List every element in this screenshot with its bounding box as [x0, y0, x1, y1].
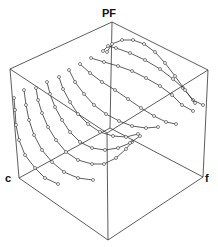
- data-point-marker: [57, 183, 60, 186]
- data-point-marker: [121, 39, 124, 42]
- data-point-marker: [103, 61, 106, 64]
- data-point-marker: [192, 110, 195, 113]
- data-point-marker: [202, 104, 205, 107]
- data-point-marker: [131, 70, 134, 73]
- data-point-marker: [164, 62, 167, 65]
- data-point-marker: [13, 97, 16, 100]
- curve: [79, 63, 178, 126]
- data-point-marker: [157, 126, 160, 129]
- data-point-marker: [49, 93, 52, 96]
- data-point-marker: [194, 102, 197, 105]
- data-point-marker: [102, 50, 105, 53]
- curve: [58, 76, 140, 139]
- data-point-marker: [41, 112, 44, 115]
- data-point-marker: [47, 126, 50, 129]
- data-point-marker: [14, 109, 17, 112]
- data-point-marker: [115, 157, 118, 160]
- data-point-marker: [129, 52, 132, 55]
- data-point-marker: [24, 154, 27, 157]
- data-point-marker: [15, 124, 18, 127]
- data-point-marker: [181, 104, 184, 107]
- data-point-marker: [77, 159, 80, 162]
- cube-edge: [203, 70, 208, 177]
- curve: [102, 45, 205, 107]
- data-point-marker: [137, 133, 140, 136]
- data-point-marker: [69, 101, 72, 104]
- data-point-marker: [63, 171, 66, 174]
- data-point-marker: [58, 76, 61, 79]
- data-point-marker: [154, 51, 157, 54]
- data-point-marker: [101, 81, 104, 84]
- data-point-marker: [41, 149, 44, 152]
- curve: [46, 81, 142, 152]
- data-point-marker: [125, 148, 128, 151]
- data-point-marker: [83, 93, 86, 96]
- axis-label-pf: PF: [102, 7, 116, 19]
- data-point-marker: [90, 57, 93, 60]
- data-point-marker: [89, 72, 92, 75]
- data-point-marker: [62, 88, 65, 91]
- data-point-marker: [115, 47, 118, 50]
- data-point-marker: [107, 45, 110, 48]
- data-point-marker: [103, 163, 106, 166]
- data-point-marker: [145, 127, 148, 130]
- data-point-marker: [143, 43, 146, 46]
- data-point-marker: [129, 142, 132, 145]
- data-point-marker: [175, 123, 178, 126]
- cube-edge: [10, 22, 112, 69]
- curve: [106, 39, 197, 105]
- cube-edge: [110, 128, 203, 177]
- cube-edges: [10, 22, 208, 240]
- data-point-marker: [74, 81, 77, 84]
- data-point-marker: [18, 139, 21, 142]
- data-point-marker: [65, 151, 68, 154]
- cube-edge: [107, 133, 108, 240]
- axis-label-f: f: [205, 172, 209, 184]
- data-point-marker: [99, 131, 102, 134]
- cube-edge: [10, 69, 19, 178]
- data-point-marker: [51, 161, 54, 164]
- data-point-marker: [125, 136, 128, 139]
- data-point-marker: [92, 179, 95, 182]
- data-point-marker: [91, 163, 94, 166]
- data-point-marker: [117, 147, 120, 150]
- data-point-marker: [37, 99, 40, 102]
- data-point-marker: [104, 149, 107, 152]
- data-point-marker: [68, 69, 71, 72]
- data-point-marker: [33, 134, 36, 137]
- data-point-marker: [117, 65, 120, 68]
- data-point-marker: [25, 104, 28, 107]
- data-point-marker: [54, 106, 57, 109]
- cube-diagram: [0, 0, 218, 247]
- data-point-marker: [132, 39, 135, 42]
- data-point-marker: [87, 123, 90, 126]
- data-point-marker: [111, 43, 114, 46]
- data-point-marker: [79, 63, 82, 66]
- data-point-marker: [28, 119, 31, 122]
- data-point-marker: [77, 177, 80, 180]
- data-point-marker: [44, 177, 47, 180]
- data-point-marker: [69, 131, 72, 134]
- data-point-marker: [127, 98, 130, 101]
- data-point-marker: [171, 94, 174, 97]
- data-point-marker: [79, 141, 82, 144]
- curve: [13, 97, 60, 186]
- axis-label-c: c: [5, 172, 11, 184]
- response-curves: [13, 39, 205, 186]
- data-point-marker: [144, 59, 147, 62]
- data-point-marker: [140, 107, 143, 110]
- cube-edge: [19, 178, 108, 240]
- data-point-marker: [118, 120, 121, 123]
- data-point-marker: [105, 113, 108, 116]
- cube-edge: [108, 177, 203, 240]
- cube-edge: [112, 22, 208, 70]
- data-point-marker: [35, 87, 38, 90]
- data-point-marker: [153, 115, 156, 118]
- data-point-marker: [91, 147, 94, 150]
- data-point-marker: [145, 77, 148, 80]
- data-point-marker: [55, 139, 58, 142]
- data-point-marker: [93, 104, 96, 107]
- data-point-marker: [184, 89, 187, 92]
- data-point-marker: [159, 85, 162, 88]
- data-point-marker: [61, 119, 64, 122]
